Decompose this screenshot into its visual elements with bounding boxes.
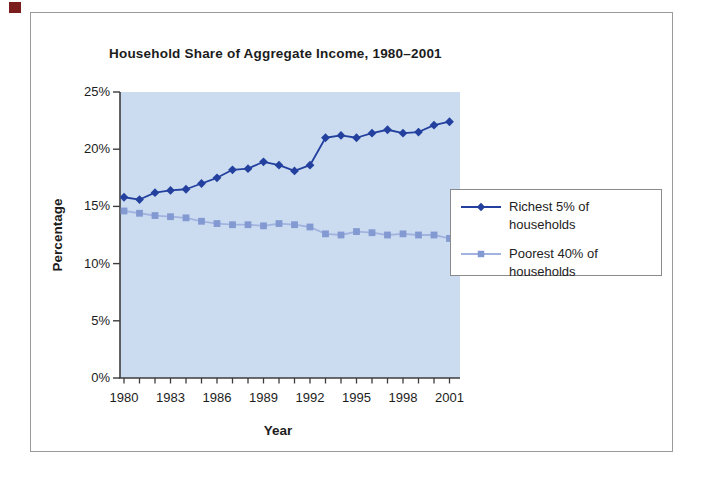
legend-label: Poorest 40% of households	[509, 245, 649, 281]
legend-label: Richest 5% of households	[509, 198, 649, 234]
legend-item-richest5: Richest 5% of households	[457, 198, 655, 234]
x-tick-label: 1980	[104, 390, 144, 405]
x-tick-label: 1998	[383, 390, 423, 405]
y-tick-label: 25%	[66, 84, 110, 99]
x-tick-label: 1983	[151, 390, 191, 405]
x-tick-label: 1986	[197, 390, 237, 405]
y-axis-label: Percentage	[50, 199, 65, 272]
legend-item-poorest40: Poorest 40% of households	[457, 245, 655, 281]
y-tick-label: 20%	[66, 141, 110, 156]
y-tick-label: 10%	[66, 256, 110, 271]
x-axis-label: Year	[228, 423, 328, 438]
x-tick-label: 1992	[290, 390, 330, 405]
diamond-marker-icon	[459, 201, 503, 213]
square-marker-icon	[459, 248, 503, 260]
legend: Richest 5% of households Poorest 40% of …	[450, 189, 662, 276]
x-tick-label: 1995	[337, 390, 377, 405]
x-tick-label: 1989	[244, 390, 284, 405]
y-tick-label: 0%	[66, 370, 110, 385]
page: Household Share of Aggregate Income, 198…	[0, 0, 703, 477]
y-tick-label: 5%	[66, 313, 110, 328]
y-tick-label: 15%	[66, 198, 110, 213]
x-tick-label: 2001	[430, 390, 470, 405]
